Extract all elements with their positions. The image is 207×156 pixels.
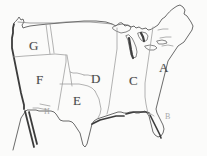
baja-inner-shade <box>29 112 37 144</box>
region-label-b: B <box>165 113 170 121</box>
lake-ontario-outline <box>157 40 167 44</box>
boundary-h-tick2 <box>40 104 50 106</box>
region-label-h: H <box>44 108 50 116</box>
region-label-c: C <box>129 74 138 87</box>
region-label-f: F <box>36 73 43 86</box>
boundary-e-north <box>60 84 95 91</box>
boundary-d-c <box>107 28 117 114</box>
map-outline-svg <box>0 0 207 156</box>
lake-huron-shade <box>141 33 144 41</box>
great-lakes-group <box>113 24 167 58</box>
lake-erie-outline <box>145 45 157 50</box>
boundary-g-east <box>46 24 50 54</box>
boundary-g-f <box>13 54 66 57</box>
region-label-d: D <box>91 72 100 85</box>
pacific-coastline-shade <box>12 24 24 109</box>
boundary-a-tick-3 <box>162 45 173 46</box>
us-regional-map: G F E D C A B H <box>0 0 207 156</box>
lake-superior <box>113 24 131 33</box>
region-label-g: G <box>29 39 38 52</box>
gulf-coastline-shade <box>92 116 124 124</box>
boundary-a-tick-2 <box>160 37 171 38</box>
boundary-d-west <box>67 55 84 75</box>
lake-michigan-shade <box>129 38 133 58</box>
boundary-e-east <box>95 91 101 118</box>
region-label-a: A <box>159 61 168 74</box>
boundary-f-east <box>58 55 66 110</box>
boundary-c-a <box>145 27 153 113</box>
boundary-a-tick-1 <box>158 29 168 30</box>
boundary-g-east2 <box>50 24 54 53</box>
region-label-e: E <box>73 94 81 107</box>
